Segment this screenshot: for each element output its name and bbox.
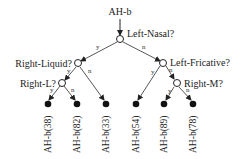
leaf-node	[45, 101, 52, 108]
edge-label-n: n	[142, 43, 146, 51]
leaf-label: AH-b(89)	[159, 116, 170, 153]
edge-label-y: y	[96, 43, 100, 51]
leaf-node	[74, 101, 81, 108]
leaf-node	[133, 101, 140, 108]
edge-label-y: y	[168, 87, 172, 95]
node-left-fricative	[160, 60, 167, 67]
edge-label-y: y	[151, 68, 155, 76]
leaf-label: AH-b(33)	[101, 116, 112, 153]
leaf-label: AH-b(38)	[43, 116, 54, 153]
edge-n1-leaf3	[80, 67, 104, 100]
node-label-left-nasal: Left-Nasal?	[127, 28, 175, 39]
edge-label-n: n	[71, 86, 75, 94]
node-right-m	[174, 80, 181, 87]
leaf-node	[190, 101, 197, 108]
node-right-liquid	[75, 60, 82, 67]
leaf-node	[103, 101, 110, 108]
leaf-label: AH-b(78)	[188, 116, 199, 153]
root-label: AH-b	[109, 6, 132, 17]
node-label-right-m: Right-M?	[184, 78, 223, 89]
node-label-right-l: Right-L?	[20, 78, 57, 89]
edge-n2-leaf4	[138, 66, 160, 100]
node-label-right-liquid: Right-Liquid?	[15, 58, 72, 69]
decision-tree: AH-b y n y n y n y n y n Left-Nasal? Rig…	[0, 0, 246, 159]
leaf-label: AH-b(54)	[131, 116, 142, 153]
leaf-label: AH-b(82)	[72, 116, 83, 153]
node-right-l	[59, 80, 66, 87]
edge-label-n: n	[88, 67, 92, 75]
node-label-left-fricative: Left-Fricative?	[170, 57, 231, 68]
leaf-node	[161, 101, 168, 108]
node-left-nasal	[117, 36, 124, 43]
